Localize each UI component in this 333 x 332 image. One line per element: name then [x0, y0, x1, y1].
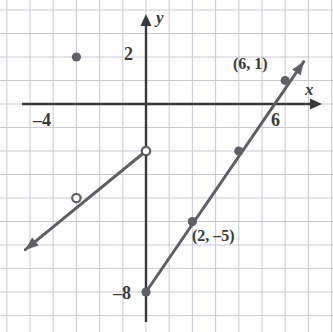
data-point-left-branch	[72, 194, 80, 202]
y-axis-arrowhead	[141, 14, 152, 26]
line-segment-left-branch	[25, 151, 146, 250]
tick-label-x-6: 6	[271, 110, 280, 131]
x-axis-label: x	[305, 80, 314, 100]
gridlines	[0, 0, 333, 332]
data-point-right-branch	[141, 287, 150, 296]
tick-label-y-neg8: –8	[113, 283, 131, 304]
data-point-right-branch	[188, 217, 197, 226]
annotation-point-6-1: (6, 1)	[233, 55, 268, 73]
data-point-left-branch	[142, 147, 150, 155]
data-point-right-branch	[281, 76, 290, 85]
tick-label-y-2: 2	[124, 44, 133, 65]
axes	[22, 14, 322, 322]
isolated-data-point	[72, 52, 81, 61]
coordinate-plane-svg	[0, 0, 333, 332]
data-point-right-branch	[234, 146, 243, 155]
graph-figure: y x 2 –8 –4 6 (6, 1) (2, –5)	[0, 0, 333, 332]
arrowhead-right-branch	[292, 62, 304, 76]
y-axis-label: y	[156, 8, 164, 28]
annotation-point-2-neg5: (2, –5)	[192, 227, 235, 245]
tick-label-x-neg4: –4	[33, 110, 51, 131]
x-axis-arrowhead	[310, 99, 322, 110]
